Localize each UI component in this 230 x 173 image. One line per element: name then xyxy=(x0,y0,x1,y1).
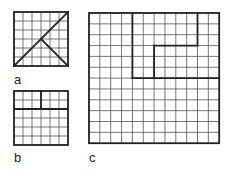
grid-figure-a xyxy=(14,12,68,66)
figure-label-b: b xyxy=(14,151,21,164)
figure-label-c: c xyxy=(89,151,96,164)
grid-figure-c xyxy=(89,13,219,143)
grid-diagram-canvas xyxy=(0,0,230,173)
grid-figure-b xyxy=(14,91,68,145)
thick-partition-line xyxy=(41,39,68,66)
figure-label-a: a xyxy=(14,73,21,86)
